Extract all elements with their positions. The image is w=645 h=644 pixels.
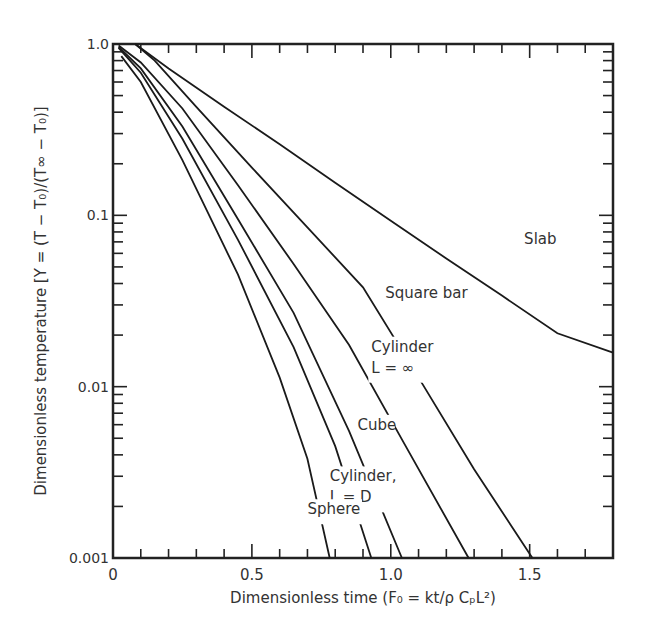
curve-label: Sphere [307,500,360,518]
y-tick-label: 0.01 [78,379,109,395]
y-axis-label: Dimensionless temperature [Y = (T − T₀)/… [32,106,50,495]
curve-label: Cylinder [371,338,434,356]
curve-label: L = ∞ [371,359,414,377]
y-tick-label: 1.0 [87,36,109,52]
curve-label: Cylinder, [330,467,397,485]
x-axis-label: Dimensionless time (F₀ = kt/ρ CₚL²) [230,589,496,607]
curve-label: Cube [357,416,396,434]
y-tick-label: 0.1 [87,207,109,223]
curve-label: Square bar [385,284,468,302]
x-tick-label: 1.5 [518,566,542,584]
thermal-cooling-chart: 00.51.01.51.00.10.010.001 SlabSquare bar… [0,0,645,644]
x-tick-label: 1.0 [379,566,403,584]
x-tick-label: 0 [108,566,118,584]
y-tick-label: 0.001 [69,550,109,566]
curve-sphere [121,56,329,558]
curve-labels: SlabSquare barCylinderL = ∞CubeCylinder,… [304,229,561,524]
x-tick-label: 0.5 [240,566,264,584]
curve-label: Slab [524,230,556,248]
